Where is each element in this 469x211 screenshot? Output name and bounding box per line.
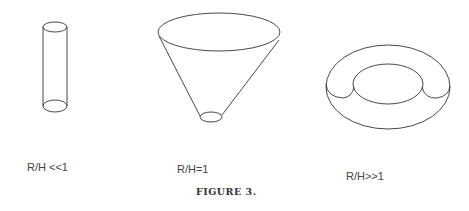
figure-drawing [0,0,469,211]
torus-outer-ellipse [326,45,450,129]
torus-shape [326,45,450,129]
figure-caption: FIGURE 3. [196,186,256,197]
torus-inner-ellipse [353,64,423,104]
torus-right-tube-arc [422,86,450,98]
panel-label-cone: R/H=1 [177,163,209,175]
panel-label-torus: R/H>>1 [346,170,384,182]
cylinder-shape [43,22,67,112]
cone-left-side [159,36,200,116]
panel-label-cylinder: R/H <<1 [27,161,68,173]
torus-left-tube-arc [326,84,354,98]
cone-right-side [222,40,279,115]
cylinder-top-ellipse [43,22,67,32]
cone-top-ellipse [158,13,280,51]
cone-shape [158,13,280,122]
cylinder-bottom-ellipse [43,100,67,112]
cone-bottom-ellipse [200,112,222,122]
